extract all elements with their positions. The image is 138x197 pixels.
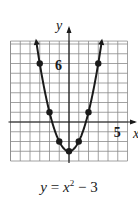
x-axis-label: x bbox=[132, 126, 138, 141]
caption-x: x bbox=[63, 179, 70, 195]
data-point bbox=[76, 138, 82, 144]
data-point bbox=[85, 109, 91, 115]
x-tick-label: 5 bbox=[114, 125, 121, 140]
caption-rest: − 3 bbox=[74, 179, 97, 195]
data-point bbox=[95, 60, 101, 66]
data-point bbox=[56, 138, 62, 144]
data-point bbox=[37, 60, 43, 66]
equation-caption: y = x2 − 3 bbox=[0, 178, 138, 196]
data-point bbox=[46, 109, 52, 115]
parabola-graph: yx65 bbox=[0, 0, 138, 197]
y-axis-label: y bbox=[54, 18, 63, 33]
y-tick-label: 6 bbox=[55, 58, 62, 73]
caption-eq: = bbox=[47, 179, 63, 195]
data-point bbox=[66, 148, 72, 154]
